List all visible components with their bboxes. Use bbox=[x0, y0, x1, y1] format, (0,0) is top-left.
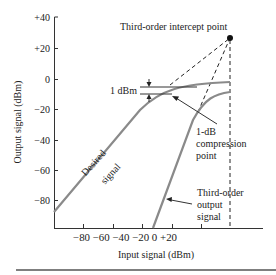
x-ticks bbox=[84, 224, 202, 228]
y-tick-label: −60 bbox=[34, 165, 50, 176]
y-tick-label: −80 bbox=[34, 195, 50, 206]
arrow-up-icon bbox=[147, 94, 152, 99]
third-order-pointer bbox=[171, 200, 192, 204]
intercept-point-dot bbox=[227, 35, 233, 41]
third-order-label: signal bbox=[197, 211, 221, 222]
y-tick-label: −20 bbox=[34, 104, 50, 115]
compression-label: compression bbox=[196, 138, 247, 149]
x-axis-title: Input signal (dBm) bbox=[118, 249, 194, 261]
y-tick-label: +40 bbox=[34, 12, 50, 23]
desired-signal-label: signal bbox=[98, 161, 122, 186]
compression-label: 1-dB bbox=[196, 126, 216, 137]
x-tick-labels: −80 −60 −40 −20 0 +20 bbox=[73, 232, 177, 243]
y-tick-label: +20 bbox=[34, 43, 50, 54]
compression-label: point bbox=[196, 150, 217, 161]
third-order-label: Third-order bbox=[197, 187, 244, 198]
arrow-down-icon bbox=[147, 82, 152, 87]
y-axis-title: Output signal (dBm) bbox=[12, 81, 24, 164]
third-order-label: output bbox=[197, 199, 223, 210]
chart-svg: +40 +20 0 −20 −40 −60 −80 −80 −60 −40 −2… bbox=[0, 0, 276, 275]
arrow-icon bbox=[172, 96, 179, 101]
y-tick-label: −40 bbox=[34, 135, 50, 146]
arrow-icon bbox=[166, 197, 172, 202]
one-dbm-label: 1 dBm bbox=[110, 85, 137, 96]
compression-pointer bbox=[176, 98, 217, 124]
intercept-label: Third-order intercept point bbox=[120, 21, 227, 32]
y-tick-label: 0 bbox=[45, 74, 50, 85]
